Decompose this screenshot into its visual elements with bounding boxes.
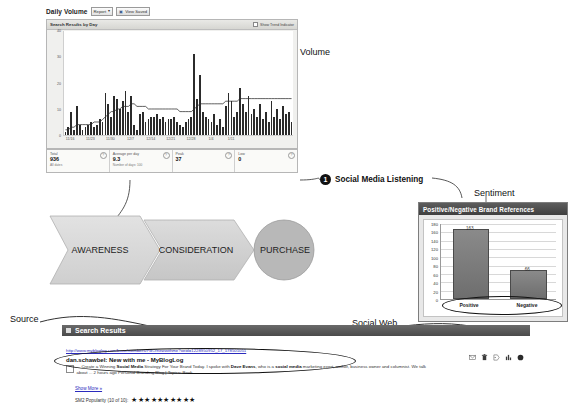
volume-bar	[122, 101, 124, 135]
volume-bar	[170, 119, 172, 135]
trash-icon[interactable]	[481, 354, 488, 361]
volume-bar	[176, 122, 178, 135]
result-url-link[interactable]: http://www.mybloglog.com/buzz/members/PB…	[62, 348, 246, 353]
result-row: ... Create a Winning Social Media Strate…	[62, 364, 530, 376]
volume-y-axis: 010203040	[47, 31, 63, 136]
volume-stats-row: Total936All dates?Average per day9.3Numb…	[46, 149, 298, 173]
daily-volume-header: Daily Volume Report ▾ ▣ View Saved	[46, 6, 298, 16]
volume-bar	[251, 114, 253, 135]
volume-bar	[136, 130, 138, 135]
volume-bar	[113, 96, 115, 135]
volume-bar	[248, 96, 250, 135]
sentiment-panel-header: Positive/Negative Brand References	[419, 203, 567, 215]
stat-value: 936	[50, 156, 106, 163]
result-title[interactable]: dan.schawbel: New with me - MyBlogLog	[62, 357, 530, 363]
sentiment-chart-body: 020406080100120140160180 16366 PositiveN…	[423, 219, 563, 317]
volume-bar	[142, 112, 144, 135]
sentiment-bar-label: 163	[466, 226, 474, 231]
volume-bar	[130, 96, 132, 135]
search-results-title: Search Results	[75, 327, 126, 334]
tag-icon[interactable]	[493, 354, 500, 361]
volume-bar	[159, 119, 161, 135]
stat-sub: All dates	[50, 163, 106, 167]
volume-bar	[67, 127, 69, 135]
help-icon[interactable]: ?	[100, 152, 107, 159]
volume-bar	[185, 122, 187, 135]
sentiment-y-tick: 180	[431, 222, 438, 227]
volume-bar	[236, 112, 238, 135]
popularity-stars: ★★★★★★★★★★	[131, 396, 195, 404]
volume-bar	[156, 114, 158, 135]
volume-bar	[216, 125, 218, 135]
page-title: Daily Volume	[46, 8, 88, 15]
volume-bar	[268, 122, 270, 135]
help-icon[interactable]: ?	[288, 152, 295, 159]
volume-bar	[190, 117, 192, 135]
volume-bar	[133, 125, 135, 135]
volume-bar	[116, 99, 118, 135]
circle-icon[interactable]	[517, 354, 524, 361]
volume-bar	[65, 132, 67, 135]
callout-social-media-listening: 1 Social Media Listening	[320, 174, 423, 185]
popularity-row: SM2 Popularity (10 of 10): ★★★★★★★★★★	[62, 396, 530, 404]
volume-bar	[282, 106, 284, 135]
stat-value: 9.3	[113, 156, 169, 163]
volume-bar	[87, 125, 89, 135]
trend-indicator-toggle[interactable]: Show Trend Indicator	[253, 22, 294, 28]
volume-bar	[288, 112, 290, 135]
sentiment-panel: Positive/Negative Brand References 02040…	[418, 202, 568, 322]
sentiment-y-tick: 160	[431, 230, 438, 235]
sentiment-bar	[510, 270, 547, 300]
funnel-stage-2: PURCHASE	[260, 245, 310, 255]
trend-indicator-label: Show Trend Indicator	[260, 23, 294, 27]
envelope-icon[interactable]	[469, 354, 476, 361]
stat-value: 0	[238, 156, 294, 163]
volume-bar	[79, 125, 81, 135]
volume-x-tick: 12/21	[166, 137, 175, 141]
sentiment-y-tick: 80	[433, 264, 438, 269]
volume-bar	[233, 117, 235, 135]
report-select[interactable]: Report ▾	[91, 7, 114, 16]
volume-bar	[145, 122, 147, 135]
sentiment-y-tick: 100	[431, 255, 438, 260]
search-results-header: Search Results	[62, 325, 530, 336]
label-sentiment: Sentiment	[474, 188, 515, 198]
sentiment-y-tick: 20	[433, 289, 438, 294]
volume-bar	[125, 91, 127, 135]
volume-bar	[85, 127, 87, 135]
checkbox-icon[interactable]	[253, 22, 259, 28]
result-snippet: ... Create a Winning Social Media Strate…	[77, 364, 432, 376]
help-icon[interactable]: ?	[163, 152, 170, 159]
volume-x-tick: 11/30	[106, 137, 115, 141]
volume-bar	[99, 119, 101, 135]
volume-bar	[188, 119, 190, 135]
sentiment-y-axis: 020406080100120140160180	[424, 224, 440, 300]
snippet-part-3: , who is a	[256, 364, 276, 369]
grid-icon	[66, 328, 71, 333]
volume-stat: Average per day9.3Number of days: 100?	[110, 150, 173, 172]
sentiment-y-tick: 40	[433, 281, 438, 286]
report-select-value: Report	[94, 8, 107, 15]
volume-bar	[242, 104, 244, 135]
volume-bar	[262, 119, 264, 135]
volume-x-tick: 11/23	[86, 137, 95, 141]
show-more-link[interactable]: Show More »	[62, 386, 102, 391]
sentiment-y-tick: 60	[433, 272, 438, 277]
snippet-part-2: Strategy For Your Brand Today. I spoke w…	[143, 364, 231, 369]
volume-bar	[245, 112, 247, 135]
volume-bar	[225, 106, 227, 135]
snippet-bold-3: social media	[275, 364, 301, 369]
chart-icon[interactable]	[505, 354, 512, 361]
volume-bar	[222, 127, 224, 135]
volume-plot-area: 010203040 11/1611/2311/3012/712/1412/211…	[47, 29, 297, 148]
view-saved-button[interactable]: ▣ View Saved	[116, 7, 150, 16]
volume-y-tick: 10	[57, 108, 61, 112]
volume-bar	[239, 88, 241, 135]
result-checkbox[interactable]	[66, 365, 74, 373]
search-results-body: http://www.mybloglog.com/buzz/members/PB…	[62, 336, 530, 404]
volume-bars	[63, 31, 293, 136]
volume-bar	[90, 122, 92, 135]
volume-bar	[279, 119, 281, 135]
volume-bar	[219, 119, 221, 135]
volume-x-tick: 12/28	[186, 137, 195, 141]
